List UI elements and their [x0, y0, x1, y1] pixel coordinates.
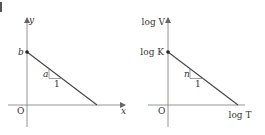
origin-label: O — [158, 106, 165, 116]
edge-mark — [0, 2, 2, 12]
origin-label: O — [17, 106, 24, 116]
y-axis-label: log V — [142, 17, 166, 27]
log-log-graph: log V log T O log K n 1 — [140, 17, 251, 127]
slope-rise-label: a — [43, 69, 48, 79]
intercept-point — [25, 50, 29, 54]
linear-graph: y x O b a 1 — [8, 15, 126, 127]
diagram-canvas: y x O b a 1 log V log T O log K n 1 — [0, 0, 265, 135]
x-axis-label: x — [121, 106, 126, 116]
intercept-label: log K — [140, 47, 164, 57]
slope-rise-label: n — [184, 69, 190, 79]
x-axis-label: log T — [229, 110, 252, 120]
slope-run-label: 1 — [195, 79, 201, 89]
y-axis-label: y — [28, 15, 35, 25]
slope-run-label: 1 — [54, 79, 60, 89]
intercept-point — [166, 50, 170, 54]
intercept-label: b — [18, 47, 24, 57]
